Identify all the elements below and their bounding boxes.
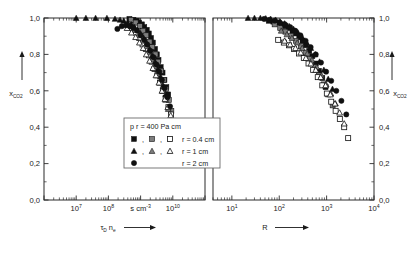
data-marker-square-filled <box>132 137 137 142</box>
figure-container: 1,01,00,80,80,60,60,40,40,20,20,00,01071… <box>0 0 419 260</box>
y-tick-label-left: 0,4 <box>29 123 40 132</box>
legend-entry-label: r = 0.4 cm <box>182 135 214 144</box>
legend-marker-0-2 <box>168 137 173 142</box>
data-marker-circle-filled <box>288 24 293 29</box>
data-marker-circle-filled <box>142 37 147 42</box>
data-marker-circle-filled <box>303 38 308 43</box>
legend-marker-0-1 <box>150 137 155 142</box>
y-axis-label-right: xCO2 <box>393 89 407 99</box>
y-axis-label-left-arrowhead <box>19 51 24 57</box>
legend-separator: , <box>160 135 162 144</box>
data-marker-circle-filled <box>344 112 349 117</box>
data-marker-circle-filled <box>148 48 153 53</box>
data-marker-circle-filled <box>329 78 334 83</box>
y-tick-label-right: 0,4 <box>379 123 390 132</box>
legend-separator: , <box>142 147 144 156</box>
data-marker-circle-filled <box>145 42 150 47</box>
x-tick-label-left: 1010 <box>166 203 180 213</box>
data-marker-square-open <box>346 136 351 141</box>
series-right-2 <box>276 37 351 140</box>
data-marker-square-open <box>333 108 338 113</box>
x-axis-label-right: R <box>262 223 267 232</box>
y-tick-label-left: 0,8 <box>29 50 40 59</box>
data-marker-circle-filled <box>334 88 339 93</box>
data-marker-circle-filled <box>272 18 277 23</box>
y-tick-label-right: 0,0 <box>379 196 390 205</box>
data-marker-circle-filled <box>308 44 313 49</box>
data-marker-square-open <box>337 117 342 122</box>
data-marker-triangle-filled <box>112 16 118 21</box>
data-marker-circle-filled <box>293 28 298 33</box>
x-axis-arrowhead-left <box>150 225 156 230</box>
data-marker-circle-filled <box>138 33 143 38</box>
data-marker-circle-filled <box>313 52 318 57</box>
plot-frame-right <box>213 18 374 200</box>
data-marker-circle-filled <box>267 17 272 22</box>
data-marker-circle-filled <box>165 95 170 100</box>
data-marker-circle-filled <box>282 22 287 27</box>
data-marker-circle-filled <box>277 20 282 25</box>
data-marker-circle-filled <box>131 160 136 165</box>
y-tick-label-left: 0,6 <box>29 87 40 96</box>
scatter-plot-figure: 1,01,00,80,80,60,60,40,40,20,20,00,01071… <box>0 0 419 260</box>
data-marker-square-open <box>168 137 173 142</box>
x-tick-label-left: 107 <box>71 203 82 213</box>
data-marker-circle-filled <box>151 55 156 60</box>
data-points-right <box>245 15 350 140</box>
x-tick-label-right: 103 <box>321 203 332 213</box>
data-marker-circle-filled <box>339 98 344 103</box>
x-tick-label-left: 108 <box>103 203 114 213</box>
data-marker-circle-filled <box>157 69 162 74</box>
legend-separator: , <box>142 135 144 144</box>
data-marker-circle-filled <box>167 104 172 109</box>
y-tick-label-right: 0,2 <box>379 159 390 168</box>
data-marker-circle-filled <box>154 62 159 67</box>
panel-right <box>213 15 374 200</box>
y-axis-label-right-arrowhead <box>389 51 394 57</box>
plot-frame-left <box>44 18 205 200</box>
data-marker-square-half <box>150 137 155 142</box>
y-tick-label-right: 1,0 <box>379 14 390 23</box>
data-marker-circle-filled <box>323 69 328 74</box>
data-marker-circle-filled <box>159 77 164 82</box>
x-tick-label-right: 101 <box>226 203 237 213</box>
x-axis-arrowhead-right <box>303 225 309 230</box>
legend: p r = 400 Pa cm,,r = 0.4 cm,,r = 1 cmr =… <box>124 118 220 168</box>
y-tick-label-left: 0,2 <box>29 159 40 168</box>
data-marker-circle-filled <box>262 16 267 21</box>
data-marker-circle-filled <box>318 60 323 65</box>
legend-title: p r = 400 Pa cm <box>130 122 181 131</box>
legend-marker-2-0 <box>131 160 136 165</box>
x-tick-label-left: s cm-3 <box>130 203 151 213</box>
y-tick-label-left: 0,0 <box>29 196 40 205</box>
y-tick-label-left: 1,0 <box>29 14 40 23</box>
legend-marker-0-0 <box>132 137 137 142</box>
y-axis-label-left: xCO2 <box>9 89 23 99</box>
x-tick-label-right: 102 <box>274 203 285 213</box>
data-marker-circle-filled <box>298 33 303 38</box>
legend-entry-label: r = 2 cm <box>182 159 208 168</box>
data-marker-circle-filled <box>162 85 167 90</box>
legend-entry-label: r = 1 cm <box>182 147 208 156</box>
data-marker-square-open <box>329 99 334 104</box>
data-marker-square-open <box>276 37 281 42</box>
data-marker-circle-filled <box>135 28 140 33</box>
y-tick-label-right: 0,8 <box>379 50 390 59</box>
x-axis-label-left: τD ne <box>100 223 116 233</box>
x-tick-label-right: 104 <box>368 203 379 213</box>
legend-separator: , <box>160 147 162 156</box>
panel-left <box>44 15 205 200</box>
y-tick-label-right: 0,6 <box>379 87 390 96</box>
